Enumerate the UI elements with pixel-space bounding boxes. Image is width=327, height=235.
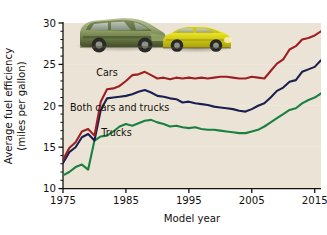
y-axis-title: Average fuel efficiency (miles per gallo… <box>3 48 27 164</box>
x-tick-label-2015: 2015 <box>302 195 327 206</box>
x-tick-label-2005: 2005 <box>239 195 265 206</box>
y-tick-label-30: 30 <box>43 18 56 29</box>
series-label-trucks: Trucks <box>100 127 131 138</box>
y-axis-title-line1: Average fuel efficiency <box>3 48 14 164</box>
y-axis-title-line2: (miles per gallon) <box>16 61 27 151</box>
x-tick-label-1985: 1985 <box>113 195 139 206</box>
x-tick-label-1975: 1975 <box>50 195 76 206</box>
fuel-efficiency-chart: 1015202530 19751985199520052015 CarsBoth… <box>0 0 327 235</box>
y-tick-label-20: 20 <box>43 101 56 112</box>
x-tick-label-1995: 1995 <box>176 195 202 206</box>
y-tick-label-10: 10 <box>43 183 56 194</box>
fuel-efficiency-figure: 1015202530 19751985199520052015 CarsBoth… <box>0 0 327 235</box>
y-tick-label-15: 15 <box>43 142 56 153</box>
series-label-both-cars-and-trucks: Both cars and trucks <box>70 102 169 113</box>
y-axis-ticks: 1015202530 <box>43 18 63 195</box>
series-label-cars: Cars <box>96 67 118 78</box>
x-axis-ticks: 19751985199520052015 <box>50 189 327 207</box>
x-axis-title: Model year <box>164 213 221 224</box>
y-tick-label-25: 25 <box>43 59 56 70</box>
